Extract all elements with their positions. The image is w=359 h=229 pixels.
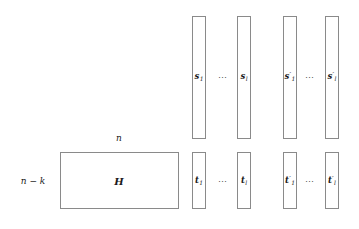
label-t-prime-l: t′l: [328, 176, 336, 186]
matrix-h-label: H: [114, 176, 123, 187]
matrix-diagram: H n n − k s1 sl s′1 s′l ⋯ ⋯ t1 tl t′1 t′…: [0, 0, 359, 229]
label-sl-subscript: l: [246, 75, 248, 82]
label-s-prime-1: s′1: [285, 72, 296, 82]
label-t-prime-l-subscript: l: [334, 179, 336, 186]
label-s-prime-l-subscript: l: [335, 75, 337, 82]
label-sl: sl: [240, 72, 247, 82]
ellipsis-s-group-2: ⋯: [305, 73, 316, 83]
label-s1: s1: [194, 72, 203, 82]
ellipsis-s-group-1: ⋯: [218, 73, 229, 83]
label-t1: t1: [195, 176, 203, 186]
ellipsis-t-group-1: ⋯: [218, 177, 229, 187]
label-t-prime-1-subscript: 1: [291, 179, 295, 186]
label-t1-subscript: 1: [199, 179, 203, 186]
label-tl: tl: [241, 176, 247, 186]
label-tl-subscript: l: [245, 179, 247, 186]
label-s-prime-1-subscript: 1: [292, 75, 296, 82]
label-t-prime-1: t′1: [285, 176, 295, 186]
matrix-height-label-n-minus-k: n − k: [21, 176, 46, 186]
label-s1-subscript: 1: [200, 75, 204, 82]
label-s-prime-l: s′l: [328, 72, 337, 82]
matrix-width-label-n: n: [116, 133, 122, 143]
ellipsis-t-group-2: ⋯: [305, 177, 316, 187]
